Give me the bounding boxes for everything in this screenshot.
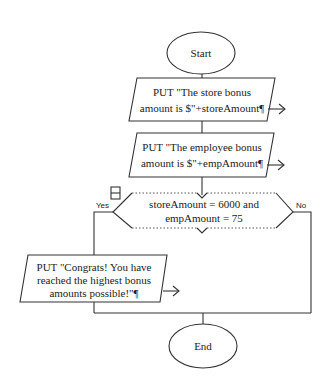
output-congrats-line3: amounts possible!"¶ bbox=[49, 287, 138, 299]
end-node[interactable]: End bbox=[169, 324, 237, 368]
yes-branch-line bbox=[94, 212, 113, 255]
output-congrats-line2: reached the highest bonus bbox=[37, 274, 151, 286]
output-arrow-icon bbox=[163, 286, 179, 296]
no-label: No bbox=[296, 201, 307, 210]
yes-label: Yes bbox=[96, 201, 109, 210]
output-employee-bonus[interactable]: PUT "The employee bonus amount is $"+emp… bbox=[129, 133, 274, 177]
decision-condition-line2: empAmount = 75 bbox=[165, 212, 243, 224]
end-label: End bbox=[194, 340, 212, 352]
no-branch-line bbox=[293, 212, 311, 313]
loop-toggle-icon[interactable] bbox=[111, 187, 120, 199]
start-node[interactable]: Start bbox=[167, 32, 235, 74]
output-congrats[interactable]: PUT "Congrats! You have reached the high… bbox=[20, 255, 167, 302]
output-store-bonus[interactable]: PUT "The store bonus amount is $"+storeA… bbox=[129, 78, 275, 121]
output-store-bonus-line2: amount is $"+storeAmount¶ bbox=[140, 102, 264, 114]
decision-node[interactable]: storeAmount = 6000 and empAmount = 75 bbox=[113, 193, 293, 233]
output-employee-bonus-line2: amount is $"+empAmount¶ bbox=[141, 157, 263, 169]
output-arrow-icon bbox=[267, 160, 284, 170]
output-store-bonus-line1: PUT "The store bonus bbox=[153, 86, 251, 98]
output-employee-bonus-line1: PUT "The employee bonus bbox=[142, 141, 261, 153]
flowchart-canvas: Start PUT "The store bonus amount is $"+… bbox=[0, 0, 333, 386]
start-label: Start bbox=[191, 47, 212, 59]
output-arrow-icon bbox=[268, 104, 285, 114]
output-congrats-line1: PUT "Congrats! You have bbox=[37, 261, 152, 273]
decision-condition-line1: storeAmount = 6000 and bbox=[149, 198, 259, 210]
